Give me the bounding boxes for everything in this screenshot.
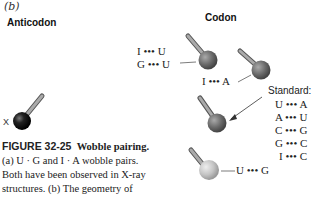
standard-pair-i-c: I ••• C	[279, 150, 307, 162]
codon-heading: Codon	[205, 12, 237, 23]
standard-pair-u-a: U ••• A	[275, 98, 307, 110]
codon-ball-3	[200, 97, 262, 133]
caption-line-2: Both have been observed in X-ray	[2, 168, 172, 182]
standard-pair-g-c: G ••• C	[275, 137, 307, 149]
codon-ball-1	[180, 36, 218, 70]
pair-u-g: U ••• G	[236, 164, 269, 176]
pair-i-a: I ••• A	[202, 75, 230, 87]
anticodon-marker: X	[3, 117, 9, 127]
standard-label: Standard:	[268, 85, 311, 96]
codon-ball-4	[191, 150, 235, 180]
anticodon-heading: Anticodon	[7, 17, 56, 28]
caption-line-3: structures. (b) The geometry of	[2, 182, 172, 196]
anticodon-ball	[13, 96, 42, 130]
standard-pair-a-u: A ••• U	[275, 111, 307, 123]
caption-line-1: (a) U · G and I · A wobble pairs.	[2, 154, 172, 168]
figure-title: Wobble pairing.	[77, 141, 149, 152]
panel-label: (b)	[4, 0, 20, 13]
pair-g-u: G ••• U	[137, 58, 170, 70]
figure-caption: FIGURE 32-25 Wobble pairing. (a) U · G a…	[2, 139, 172, 196]
standard-pair-c-g: C ••• G	[275, 124, 307, 136]
pair-i-u: I ••• U	[137, 45, 166, 57]
figure-number: FIGURE 32-25	[2, 140, 71, 152]
codon-ball-2	[238, 51, 271, 82]
